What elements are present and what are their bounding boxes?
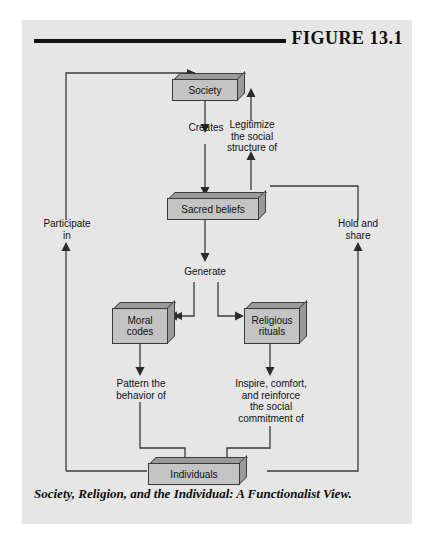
node-religious-rituals-side-face [299,300,307,344]
arrowhead-hold-and-share [354,242,363,251]
edge-hold-to-sacred-beliefs [270,186,358,220]
node-sacred-beliefs-label: Sacred beliefs [167,198,259,220]
node-moral-codes-side-face [167,300,175,344]
flow-label-inspire-comfort: Inspire, comfort, and reinforce the soci… [226,378,316,424]
flow-label-participate-in: Participate in [34,218,100,241]
node-moral-codes-label: Moral codes [112,308,168,344]
node-individuals[interactable]: Individuals [148,457,240,485]
edge-generate-to-moral-codes [174,282,194,316]
arrowhead-legitimize-upper [247,88,256,97]
node-sacred-beliefs[interactable]: Sacred beliefs [167,192,259,220]
node-moral-codes[interactable]: Moral codes [112,302,168,344]
figure-root: FIGURE 13.1 [0,0,426,544]
arrowhead-participate-in [62,242,71,251]
figure-caption: Society, Religion, and the Individual: A… [34,486,352,502]
arrowhead-pattern [136,367,145,376]
flow-label-pattern-behavior: Pattern the behavior of [105,378,177,401]
node-individuals-label: Individuals [148,463,240,485]
flow-label-legitimize: Legitimize the social structure of [216,119,288,154]
edge-generate-to-religious-rituals [218,282,238,316]
figure-number-label: FIGURE 13.1 [291,28,403,49]
flow-label-hold-and-share: Hold and share [326,218,390,241]
flow-label-generate: Generate [176,266,234,278]
figure-panel: FIGURE 13.1 [22,20,412,524]
figure-top-rule [34,39,286,43]
edge-individuals-to-sacred-lower [267,246,358,471]
arrowhead-inspire [266,367,275,376]
node-religious-rituals[interactable]: Religious rituals [244,302,300,344]
node-society-label: Society [172,79,238,101]
arrowhead-religious-rituals [235,312,244,321]
node-society[interactable]: Society [172,73,238,101]
node-religious-rituals-label: Religious rituals [244,308,300,344]
arrowhead-generate [201,253,210,262]
